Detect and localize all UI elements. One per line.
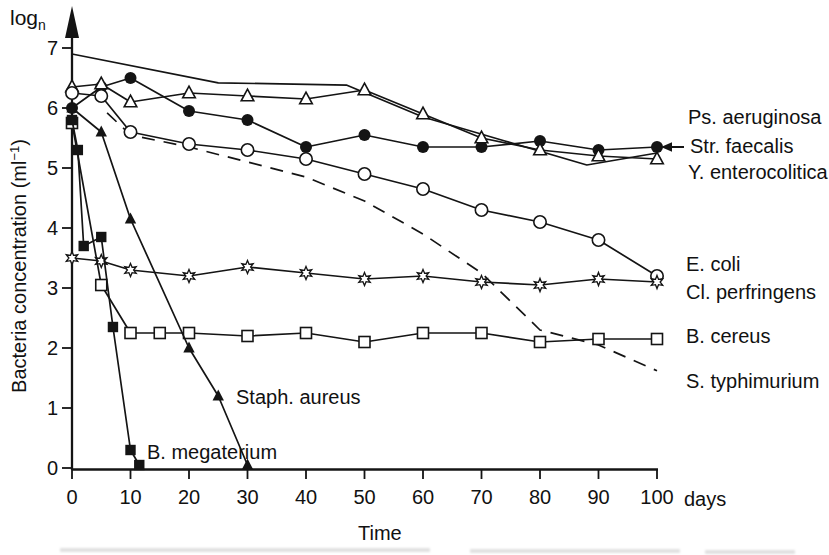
y-tick-label: 3	[47, 277, 58, 300]
b_cereus-marker	[476, 328, 487, 339]
staph_aureus-marker	[96, 126, 107, 137]
b_megaterium-marker	[67, 115, 77, 125]
e_coli-marker	[534, 216, 546, 228]
series-label-e-coli: E. coli	[686, 252, 740, 276]
b_cereus-marker	[535, 337, 546, 348]
chart-plot	[0, 0, 829, 555]
series-str_faecalis	[72, 54, 657, 165]
y-tick-label: 7	[47, 37, 58, 60]
staph_aureus-marker	[125, 213, 136, 224]
e_coli-marker	[300, 153, 312, 165]
y-tick-label: 4	[47, 217, 58, 240]
b_megaterium-marker	[125, 445, 135, 455]
b_cereus-marker	[154, 328, 165, 339]
b_cereus-marker	[652, 334, 663, 345]
e_coli-marker	[417, 183, 429, 195]
e_coli-marker	[183, 138, 195, 150]
b_megaterium-marker	[73, 145, 83, 155]
y-axis-title-superscript: −1	[7, 146, 22, 161]
x-tick-label: 20	[178, 486, 200, 509]
b_cereus-marker	[301, 328, 312, 339]
b_cereus-marker	[593, 334, 604, 345]
b_megaterium-marker	[134, 460, 144, 470]
x-tick-label: 10	[119, 486, 141, 509]
series-y_enterocolitica	[66, 77, 664, 164]
y-axis-title-text: Bacteria concentration (ml	[8, 161, 30, 393]
ps_aeruginosa-marker	[242, 114, 254, 126]
x-tick-label: 60	[412, 486, 434, 509]
x-axis-title: Time	[358, 521, 402, 545]
y-axis-title: Bacteria concentration (ml−1)	[3, 139, 32, 393]
b_megaterium-marker	[96, 232, 106, 242]
y-tick-label: 6	[47, 97, 58, 120]
series-label-staph-aureus: Staph. aureus	[236, 385, 361, 409]
x-tick-label: 80	[529, 486, 551, 509]
series-label-y-enterocolitica: Y. enterocolitica	[688, 160, 828, 184]
e_coli-marker	[358, 168, 370, 180]
b_megaterium-marker	[108, 322, 118, 332]
y_enterocolitica-marker	[183, 86, 196, 98]
b_cereus-marker	[125, 328, 136, 339]
y-axis-title-close: )	[8, 139, 30, 146]
e_coli-marker	[475, 204, 487, 216]
series-cl_perfringens	[66, 251, 662, 291]
series-label-ps-aeruginosa: Ps. aeruginosa	[688, 105, 821, 129]
series-line-e_coli	[72, 93, 657, 276]
x-axis-unit-label: days	[684, 487, 726, 511]
series-label-cl-perfringens: Cl. perfringens	[686, 280, 816, 304]
x-tick-label: 40	[295, 486, 317, 509]
y-tick-label: 0	[47, 457, 58, 480]
y-axis-arrowhead	[65, 6, 79, 38]
b_megaterium-marker	[79, 241, 89, 251]
series-label-s-typhimurium: S. typhimurium	[686, 369, 819, 393]
b_cereus-marker	[418, 328, 429, 339]
str-faecalis-arrow	[661, 142, 684, 152]
x-tick-label: 0	[66, 486, 77, 509]
y-tick-label: 1	[47, 397, 58, 420]
ps_aeruginosa-marker	[125, 72, 137, 84]
e_coli-marker	[124, 126, 136, 138]
y-tick-label: 5	[47, 157, 58, 180]
staph_aureus-marker	[183, 342, 194, 353]
x-tick-label: 70	[470, 486, 492, 509]
ps_aeruginosa-marker	[417, 141, 429, 153]
log-text: log	[10, 6, 38, 29]
e_coli-marker	[592, 234, 604, 246]
series-line-str_faecalis	[72, 54, 657, 165]
e_coli-marker	[241, 144, 253, 156]
y-axis-unit-label: logn	[10, 6, 46, 37]
y_enterocolitica-marker	[358, 83, 371, 95]
series-label-b-megaterium: B. megaterium	[147, 440, 277, 464]
series-staph_aureus	[66, 102, 253, 470]
x-tick-label: 30	[236, 486, 258, 509]
x-tick-label: 90	[587, 486, 609, 509]
photocopy-artifact	[470, 549, 680, 553]
series-line-b_cereus	[72, 123, 657, 342]
series-label-str-faecalis: Str. faecalis	[690, 134, 793, 158]
series-e_coli	[66, 87, 663, 282]
e_coli-marker	[66, 87, 78, 99]
y-tick-label: 2	[47, 337, 58, 360]
x-tick-label: 100	[640, 486, 673, 509]
ps_aeruginosa-marker	[183, 105, 195, 117]
e_coli-marker	[95, 90, 107, 102]
b_cereus-marker	[242, 331, 253, 342]
series-label-b-cereus: B. cereus	[686, 324, 770, 348]
log-subscript: n	[38, 17, 46, 33]
photocopy-artifact	[705, 550, 795, 554]
staph_aureus-marker	[213, 390, 224, 401]
photocopy-artifact	[60, 548, 430, 552]
figure-canvas: logn Bacteria concentration (ml−1) 01020…	[0, 0, 829, 555]
b_cereus-marker	[359, 337, 370, 348]
b_cereus-marker	[184, 328, 195, 339]
x-tick-label: 50	[353, 486, 375, 509]
ps_aeruginosa-marker	[300, 141, 312, 153]
ps_aeruginosa-marker	[359, 129, 371, 141]
b_cereus-marker	[96, 280, 107, 291]
